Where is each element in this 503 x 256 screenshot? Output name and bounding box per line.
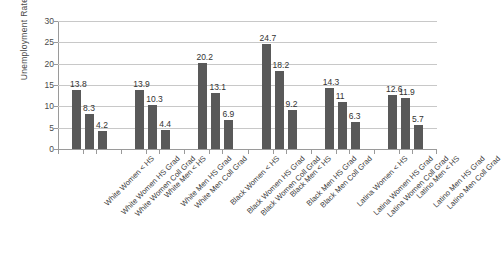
- bar: [198, 63, 207, 149]
- bar: [338, 102, 347, 149]
- bar-value-label: 10.3: [146, 94, 163, 104]
- y-tick-label: 20: [18, 59, 54, 69]
- y-tick-label: 30: [18, 16, 54, 26]
- bar: [224, 120, 233, 149]
- plot-area: 13.88.34.213.910.34.420.213.16.924.718.2…: [58, 21, 437, 149]
- y-tick-label: 25: [18, 37, 54, 47]
- x-axis-labels: White Women < HSWhite Women HS GradWhite…: [58, 154, 443, 256]
- bar-value-label: 9.2: [286, 99, 298, 109]
- bar: [161, 130, 170, 149]
- bar: [414, 125, 423, 149]
- bar-value-label: 11: [336, 91, 345, 101]
- bar-value-label: 13.8: [70, 79, 87, 89]
- bar: [262, 44, 271, 149]
- y-tick-label: 5: [18, 123, 54, 133]
- y-tick-label: 0: [18, 144, 54, 154]
- bar: [148, 105, 157, 149]
- bar-value-label: 24.7: [260, 33, 277, 43]
- y-tick-label: 15: [18, 80, 54, 90]
- y-axis-ticks: 051015202530: [0, 21, 54, 149]
- y-tick-label: 10: [18, 101, 54, 111]
- bar: [351, 122, 360, 149]
- bar: [98, 131, 107, 149]
- bar: [288, 110, 297, 149]
- bar: [85, 114, 94, 149]
- bar-value-label: 5.7: [412, 114, 424, 124]
- bar-value-label: 11.9: [399, 87, 415, 97]
- bar-value-label: 6.3: [349, 111, 361, 121]
- bar: [72, 90, 81, 149]
- bar: [388, 95, 397, 149]
- bar: [325, 88, 334, 149]
- bar-value-label: 4.4: [159, 119, 171, 129]
- bar: [211, 93, 220, 149]
- bar-value-label: 6.9: [222, 109, 234, 119]
- bar-value-label: 20.2: [196, 52, 213, 62]
- bar-value-label: 13.9: [133, 79, 150, 89]
- bar-value-label: 4.2: [96, 120, 108, 130]
- bar: [135, 90, 144, 149]
- bar-value-label: 14.3: [323, 77, 340, 87]
- bar-value-label: 13.1: [209, 82, 226, 92]
- bar-value-label: 18.2: [273, 60, 290, 70]
- bar: [275, 71, 284, 149]
- bar: [401, 98, 410, 149]
- bars-layer: 13.88.34.213.910.34.420.213.16.924.718.2…: [58, 21, 437, 149]
- bar-value-label: 8.3: [83, 103, 95, 113]
